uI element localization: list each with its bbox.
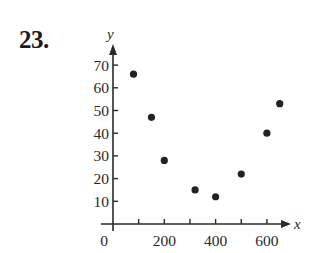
y-tick-label: 10: [94, 193, 110, 210]
y-axis-arrow-icon: [109, 44, 117, 55]
data-point: [148, 114, 155, 121]
data-point: [212, 193, 219, 200]
data-point: [263, 130, 270, 137]
data-point: [191, 186, 198, 193]
data-point: [161, 157, 168, 164]
y-tick-label: 40: [94, 125, 110, 142]
x-tick-label: 200: [153, 232, 177, 249]
y-tick-label: 20: [94, 170, 110, 187]
x-axis-arrow-icon: [281, 220, 291, 228]
axes: x y: [101, 26, 301, 232]
x-tick-label: 400: [204, 232, 228, 249]
data-point: [276, 100, 283, 107]
x-axis-label: x: [293, 216, 301, 232]
data-points: [130, 71, 283, 201]
data-point: [130, 71, 137, 78]
y-axis-label: y: [105, 26, 114, 42]
x-tick-label: 0: [100, 232, 108, 249]
scatter-plot: x y 0200400600 10203040506070: [0, 0, 322, 253]
y-tick-label: 50: [94, 102, 110, 119]
y-tick-label: 70: [94, 57, 110, 74]
y-ticks: 10203040506070: [94, 57, 119, 210]
y-tick-label: 60: [94, 79, 110, 96]
y-tick-label: 30: [94, 147, 110, 164]
x-tick-label: 600: [255, 232, 279, 249]
data-point: [238, 170, 245, 177]
